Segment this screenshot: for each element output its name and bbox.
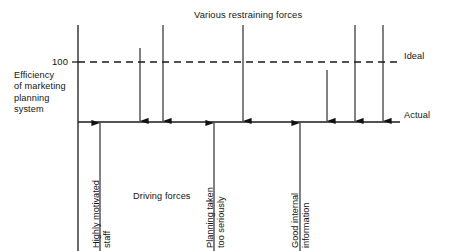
driving-force-label-planning-taken-too-seriously: Planning taken too seriously	[205, 187, 228, 248]
ideal-line-label: Ideal	[404, 51, 424, 63]
diagram-title: Various restraining forces	[194, 9, 302, 21]
driving-force-label-highly-motivated-staff: Highly motivated staff	[91, 180, 114, 248]
force-field-diagram: Various restraining forces 100 Efficienc…	[0, 0, 449, 251]
y-axis-label: Efficiency of marketing planning system	[14, 70, 66, 116]
axis-tick-label-100: 100	[52, 56, 68, 68]
actual-line-label: Actual	[404, 110, 430, 122]
driving-forces-label: Driving forces	[133, 191, 191, 203]
driving-force-label-good-internal-information: Good internal information	[290, 193, 313, 248]
driving-forces-group	[100, 123, 300, 251]
restraining-forces-group	[140, 25, 383, 121]
